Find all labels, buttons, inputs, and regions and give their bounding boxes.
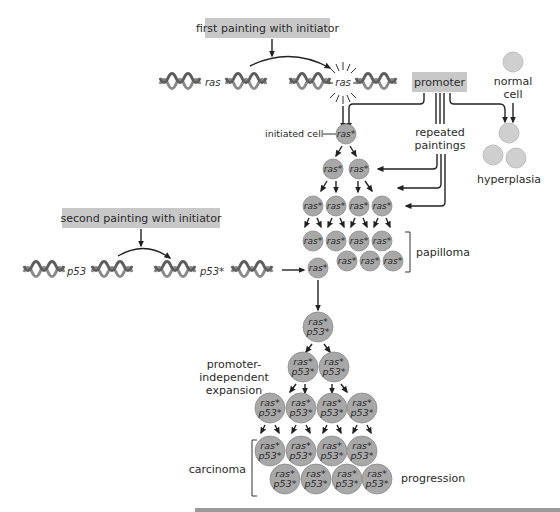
svg-text:ras*: ras* (324, 164, 343, 174)
svg-text:ras*: ras* (373, 201, 392, 211)
repeated-arrow-3 (406, 154, 445, 206)
repeated-paintings-label: repeated (415, 126, 465, 139)
svg-text:second painting with initiator: second painting with initiator (61, 212, 222, 225)
dna-ras-mutated: ras (290, 62, 396, 104)
promoter-independent-label-2: independent (199, 371, 269, 384)
initiated-cell-label: initiated cell (265, 128, 323, 139)
svg-text:p53*: p53* (258, 450, 282, 461)
svg-text:p53*: p53* (199, 266, 224, 277)
svg-text:p53*: p53* (320, 450, 344, 461)
double-mutant-cells: ras*p53* ras*p53* ras*p53* ras*p53* ras*… (255, 312, 392, 494)
svg-text:p53*: p53* (304, 478, 328, 489)
promoter-independent-label-3: expansion (206, 384, 262, 397)
dna-p53-mutated: p53* (155, 262, 272, 278)
promoter-arrow-hyperplasia (450, 93, 505, 122)
repeated-arrow-2 (398, 154, 441, 188)
normal-cell-label-2: cell (504, 88, 523, 101)
svg-text:p53*: p53* (322, 366, 346, 377)
promoter-arrow-initiated (349, 93, 424, 128)
svg-text:p53*: p53* (289, 407, 313, 418)
svg-text:ras*: ras* (309, 263, 328, 273)
svg-text:ras*: ras* (327, 236, 346, 246)
normal-cell-top (503, 52, 523, 72)
svg-text:p53*: p53* (289, 450, 313, 461)
svg-text:ras: ras (335, 77, 350, 88)
ras-cells: ras* ras* ras* ras* ras* ras* ras* ras* … (303, 124, 403, 278)
svg-text:ras*: ras* (350, 164, 369, 174)
svg-text:promoter: promoter (414, 76, 466, 89)
svg-text:ras*: ras* (373, 236, 392, 246)
svg-text:ras*: ras* (384, 256, 403, 266)
svg-text:p53*: p53* (350, 450, 374, 461)
bottom-rule (195, 508, 560, 512)
svg-text:first painting with initiator: first painting with initiator (196, 22, 340, 35)
normal-cell-label: normal (494, 75, 533, 88)
svg-text:ras: ras (205, 77, 220, 88)
hyperplasia-label: hyperplasia (477, 173, 541, 186)
svg-text:ras*: ras* (338, 256, 357, 266)
promoter-independent-label: promoter- (207, 358, 261, 371)
hyperplasia-cell-2 (483, 145, 503, 165)
svg-text:p53*: p53* (365, 478, 389, 489)
svg-text:ras*: ras* (350, 236, 369, 246)
first-painting-label: first painting with initiator (196, 18, 340, 38)
repeated-paintings-label-2: paintings (415, 139, 466, 152)
svg-text:p53: p53 (66, 266, 86, 277)
hyperplasia-cell-1 (499, 123, 519, 143)
carcinoma-label: carcinoma (189, 463, 246, 476)
carcinogenesis-diagram: first painting with initiator ras ras (0, 0, 560, 512)
mutation-curve-arrow-1 (250, 56, 330, 68)
progression-label: progression (401, 472, 465, 485)
hyperplasia-cell-3 (506, 148, 526, 168)
papilloma-label: papilloma (416, 246, 470, 259)
promoter-label: promoter (412, 72, 467, 92)
svg-text:ras*: ras* (327, 201, 346, 211)
svg-text:p53*: p53* (350, 407, 374, 418)
svg-text:p53*: p53* (273, 478, 297, 489)
svg-text:p53*: p53* (320, 407, 344, 418)
svg-text:ras*: ras* (337, 129, 356, 139)
svg-text:ras*: ras* (304, 236, 323, 246)
dna-ras-normal: ras (160, 74, 266, 89)
svg-text:p53*: p53* (291, 366, 315, 377)
repeated-arrow-1 (378, 154, 437, 169)
second-painting-label: second painting with initiator (61, 208, 222, 228)
papilloma-bracket (405, 232, 410, 272)
mutation-curve-arrow-2 (118, 248, 170, 258)
svg-text:p53*: p53* (335, 478, 359, 489)
dna-p53-normal: p53 (24, 262, 132, 278)
svg-text:ras*: ras* (304, 201, 323, 211)
svg-text:ras*: ras* (350, 201, 369, 211)
svg-text:ras*: ras* (361, 256, 380, 266)
svg-text:p53*: p53* (306, 326, 330, 337)
svg-text:p53*: p53* (258, 407, 282, 418)
